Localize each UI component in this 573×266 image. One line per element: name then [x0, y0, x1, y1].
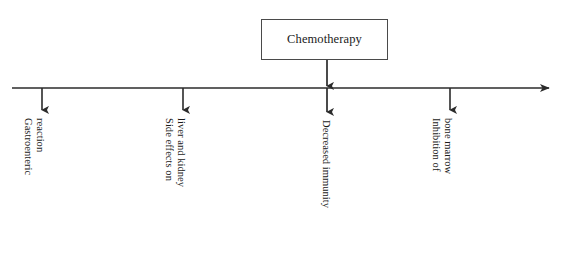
label-gastroenteric-reaction: Gastroenteric reaction [23, 118, 46, 175]
label-line: Side effects on [164, 118, 176, 181]
chemotherapy-box-label: Chemotherapy [287, 33, 362, 46]
label-side-effects-liver-kidney: Side effects on liver and kidney [164, 118, 187, 187]
label-line: Inhibition of [431, 118, 443, 171]
label-decreased-immunity: Decreased immunity [321, 120, 333, 208]
label-line: bone marrow [443, 118, 455, 174]
label-line: Gastroenteric [23, 118, 35, 175]
chemotherapy-box: Chemotherapy [261, 19, 388, 60]
label-inhibition-of-bone-marrow: Inhibition of bone marrow [431, 118, 454, 174]
label-line: liver and kidney [176, 118, 188, 187]
diagram-canvas: Chemotherapy Gastroenteric reaction Side… [0, 0, 573, 266]
label-line: reaction [35, 118, 47, 152]
label-line: Decreased immunity [321, 120, 333, 208]
